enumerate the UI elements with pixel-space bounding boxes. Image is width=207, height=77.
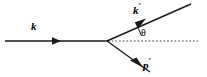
scattering-diagram: k k′ p′ θ (0, 0, 207, 77)
incoming-momentum-label: k (31, 21, 37, 32)
recoil-momentum-prime-mark: ′ (149, 56, 152, 66)
scattered-momentum-prime-mark: ′ (139, 1, 142, 11)
scattered-momentum-label: k′ (133, 2, 141, 16)
scattering-angle-label: θ (141, 28, 146, 38)
incoming-momentum-arrowhead (52, 37, 61, 45)
scattered-momentum-line (107, 4, 191, 41)
scattering-diagram-canvas (0, 0, 207, 77)
recoil-momentum-label: p′ (143, 57, 151, 71)
